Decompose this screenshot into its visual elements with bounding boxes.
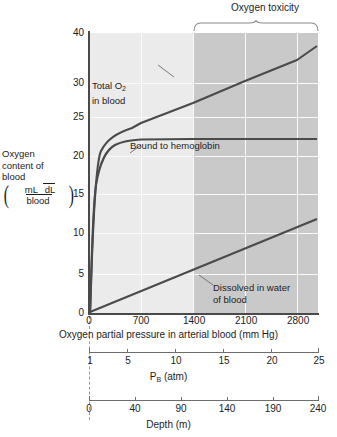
x2-tick-20: 20 [263,356,281,366]
leader-line-total-o2 [158,65,174,77]
x2-tick-mark-5 [127,349,128,352]
y-tick-15: 15 [58,189,84,199]
annotation-bound-hemoglobin: Bound to hemoglobin [130,140,220,152]
x3-axis-rule [89,400,319,401]
oxygen-content-chart: Oxygen toxicity Oxygen content of blood … [0,0,337,437]
y-tick-30: 30 [58,78,84,88]
y-axis-line [88,31,90,315]
x1-tick-0: 0 [79,316,99,326]
x2-tick-5: 5 [121,356,135,366]
x-axis-depth-caption: Depth (m) [0,419,337,430]
x1-tick-1400: 1400 [183,316,203,326]
x3-tick-140: 140 [216,404,238,414]
x1-tick-700: 700 [131,316,151,326]
oxygen-toxicity-label: Oxygen toxicity [193,2,337,13]
y-tick-40: 40 [58,28,84,38]
pb-caption-rest: (atm) [161,371,187,382]
x2-endtick-right [318,348,319,352]
x-axis-partial-pressure-ticks: 0 700 1400 2100 2800 [0,316,337,328]
x2-endtick-left [89,348,90,352]
x2-tick-1: 1 [83,356,97,366]
y-tick-25: 25 [58,112,84,122]
x2-tick-10: 10 [167,356,185,366]
subscript-2: 2 [122,85,126,92]
x3-tick-mark-90 [181,397,182,400]
leader-line-dissolved [199,275,213,285]
x3-tick-mark-140 [227,397,228,400]
x3-tick-40: 40 [126,404,144,414]
x3-tick-0: 0 [82,404,96,414]
x1-tick-2100: 2100 [235,316,255,326]
annotation-total-o2-text2: in blood [92,95,126,107]
x3-tick-mark-190 [273,397,274,400]
y-tick-10: 10 [58,228,84,238]
x3-tick-190: 190 [262,404,284,414]
x3-tick-240: 240 [307,404,329,414]
x2-tick-mark-10 [175,349,176,352]
x3-tick-mark-40 [135,397,136,400]
annotation-dissolved: Dissolved in water of blood [213,282,290,305]
x1-tick-2800: 2800 [287,316,307,326]
x3-endtick-right [318,396,319,400]
x2-axis-rule [89,352,319,353]
plot-area [89,33,318,313]
y-tick-20: 20 [58,151,84,161]
annotation-dissolved-text1: Dissolved in water [213,282,290,294]
curve-group [89,33,318,313]
x-axis-barometric-pressure-caption: PB (atm) [0,371,337,385]
annotation-dissolved-text2: of blood [213,294,290,306]
annotation-total-o2: Total O2 in blood [92,80,126,106]
x2-tick-15: 15 [215,356,233,366]
annotation-total-o2-text: Total O [92,80,122,91]
left-paren: ( [4,185,9,205]
x2-tick-mark-15 [223,349,224,352]
x2-tick-mark-20 [271,349,272,352]
x2-tick-25: 25 [310,356,328,366]
oxygen-toxicity-brace-icon [193,18,319,30]
x3-tick-90: 90 [172,404,190,414]
fraction-numerator: mL [23,184,40,195]
y-tick-5: 5 [58,269,84,279]
x-axis-partial-pressure-caption: Oxygen partial pressure in arterial bloo… [0,329,337,340]
x3-endtick-left [89,396,90,400]
